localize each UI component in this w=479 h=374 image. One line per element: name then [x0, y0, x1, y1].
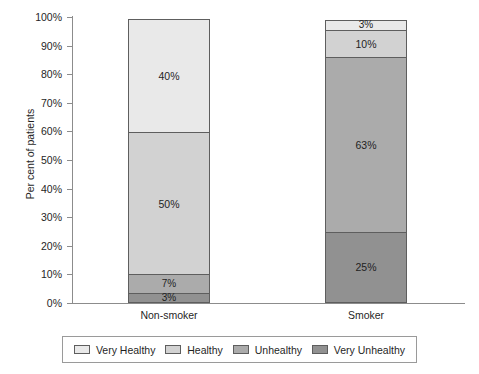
y-tick-label-50: 50%: [20, 154, 62, 166]
segment-label: 25%: [355, 262, 376, 273]
stacked-bar-chart: Per cent of patients 100% 90% 80% 70% 60…: [0, 0, 479, 374]
legend-label: Very Healthy: [96, 344, 156, 356]
legend-item-healthy[interactable]: Healthy: [165, 344, 223, 356]
legend-item-unhealthy[interactable]: Unhealthy: [233, 344, 302, 356]
segment-non-smoker-very-unhealthy[interactable]: 3%: [128, 293, 210, 303]
legend-swatch-icon: [233, 345, 249, 354]
y-tick-label-80: 80%: [20, 68, 62, 80]
y-tick-label-40: 40%: [20, 183, 62, 195]
segment-smoker-very-unhealthy[interactable]: 25%: [325, 232, 407, 304]
segment-label: 40%: [158, 71, 179, 82]
legend-label: Very Unhealthy: [334, 344, 405, 356]
y-tick-label-10: 10%: [20, 268, 62, 280]
segment-label: 7%: [162, 279, 176, 289]
y-tick-label-60: 60%: [20, 125, 62, 137]
segment-label: 3%: [359, 20, 373, 30]
y-tick-label-100: 100%: [20, 11, 62, 23]
plot-area: 40% 50% 7% 3% 3% 10% 63% 25%: [72, 17, 465, 303]
y-tick-label-70: 70%: [20, 97, 62, 109]
legend-label: Healthy: [187, 344, 223, 356]
y-tick-label-0: 0%: [20, 297, 62, 309]
y-tick-label-90: 90%: [20, 40, 62, 52]
segment-smoker-healthy[interactable]: 10%: [325, 30, 407, 59]
bar-non-smoker[interactable]: 40% 50% 7% 3%: [128, 19, 210, 303]
y-tick-label-20: 20%: [20, 240, 62, 252]
y-tick-0: [67, 303, 72, 304]
segment-non-smoker-healthy[interactable]: 50%: [128, 132, 210, 275]
bar-smoker[interactable]: 3% 10% 63% 25%: [325, 20, 407, 303]
legend-label: Unhealthy: [255, 344, 302, 356]
x-tick-label-smoker: Smoker: [286, 309, 446, 321]
legend-item-very-healthy[interactable]: Very Healthy: [74, 344, 156, 356]
segment-label: 63%: [355, 140, 376, 151]
legend-swatch-icon: [74, 345, 90, 354]
x-tick-label-non-smoker: Non-smoker: [89, 309, 249, 321]
y-tick-label-30: 30%: [20, 211, 62, 223]
segment-non-smoker-very-healthy[interactable]: 40%: [128, 19, 210, 133]
segment-label: 3%: [162, 293, 176, 303]
legend-swatch-icon: [165, 345, 181, 354]
legend-swatch-icon: [312, 345, 328, 354]
x-axis-line: [72, 303, 465, 304]
legend-item-very-unhealthy[interactable]: Very Unhealthy: [312, 344, 405, 356]
segment-smoker-unhealthy[interactable]: 63%: [325, 57, 407, 232]
segment-label: 10%: [355, 39, 376, 50]
segment-label: 50%: [158, 199, 179, 210]
legend: Very Healthy Healthy Unhealthy Very Unhe…: [62, 336, 417, 363]
